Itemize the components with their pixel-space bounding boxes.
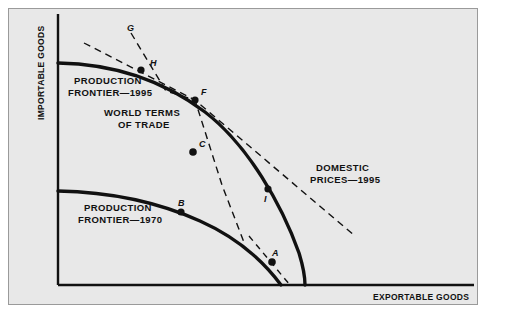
point-a-label: A <box>271 248 279 258</box>
domestic-prices-1995-label-line1: DOMESTIC <box>316 162 369 173</box>
y-axis-label: IMPORTABLE GOODS <box>36 26 46 120</box>
ppf-chart: G H F C B I A IMPORTABLE GOODS EXPORTABL… <box>0 0 512 321</box>
point-a-marker <box>268 258 276 266</box>
point-c-marker <box>189 148 197 156</box>
production-frontier-1970-label-line2: FRONTIER—1970 <box>78 214 162 225</box>
point-i-marker <box>264 185 271 192</box>
x-axis-label: EXPORTABLE GOODS <box>373 292 469 302</box>
figure-container: G H F C B I A IMPORTABLE GOODS EXPORTABL… <box>0 0 512 321</box>
point-h-label: H <box>150 58 157 68</box>
point-g-label: G <box>127 23 134 33</box>
point-f-label: F <box>201 87 207 97</box>
point-c-label: C <box>199 139 206 149</box>
production-frontier-1970-label-line1: PRODUCTION <box>84 202 152 213</box>
world-terms-of-trade-label-line2: OF TRADE <box>118 119 170 130</box>
point-h-marker <box>137 66 144 73</box>
point-b-label: B <box>178 198 185 208</box>
point-i-label: I <box>264 194 267 204</box>
domestic-prices-1995-label-line2: PRICES—1995 <box>310 174 381 185</box>
production-frontier-1995-label-line1: PRODUCTION <box>74 75 142 86</box>
production-frontier-1995-label-line2: FRONTIER—1995 <box>68 87 153 98</box>
point-f-marker <box>191 96 198 103</box>
point-b-marker <box>177 208 184 215</box>
world-terms-of-trade-label-line1: WORLD TERMS <box>104 107 180 118</box>
